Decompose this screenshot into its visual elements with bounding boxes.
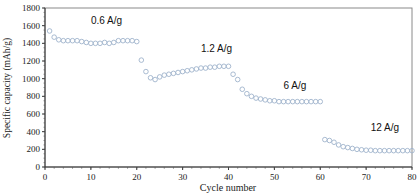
- data-point: [176, 70, 181, 75]
- plot-frame: [45, 8, 412, 167]
- y-tick-label: 1800: [22, 3, 41, 13]
- data-point: [401, 148, 406, 153]
- data-point: [139, 58, 144, 63]
- data-point: [208, 65, 213, 70]
- data-point: [134, 39, 139, 44]
- data-point: [171, 71, 176, 76]
- data-point: [52, 35, 57, 40]
- data-point: [267, 98, 272, 103]
- data-point: [222, 64, 227, 69]
- data-point: [368, 148, 373, 153]
- data-point: [332, 140, 337, 145]
- data-point: [162, 73, 167, 78]
- data-point: [116, 38, 121, 43]
- x-tick-label: 70: [362, 172, 372, 182]
- x-tick-label: 30: [178, 172, 188, 182]
- data-point: [318, 99, 323, 104]
- data-point: [217, 64, 222, 69]
- x-tick-label: 0: [43, 172, 48, 182]
- data-point: [194, 67, 199, 72]
- x-tick-label: 50: [270, 172, 280, 182]
- y-axis-label: Specific capacity (mAh/g): [2, 38, 13, 138]
- x-tick-label: 40: [224, 172, 234, 182]
- y-tick-label: 0: [36, 162, 41, 172]
- rate-annotation: 6 A/g: [284, 80, 307, 91]
- y-tick-label: 1200: [22, 56, 41, 66]
- y-tick-label: 600: [27, 109, 41, 119]
- data-point: [180, 69, 185, 74]
- data-point: [323, 137, 328, 142]
- rate-annotation: 0.6 A/g: [91, 15, 122, 26]
- x-axis-label: Cycle number: [200, 182, 257, 193]
- data-point: [240, 87, 245, 92]
- y-tick-label: 400: [27, 127, 41, 137]
- data-point: [199, 66, 204, 71]
- chart-svg: 0200400600800100012001400160018000102030…: [0, 0, 420, 194]
- data-point: [387, 148, 392, 153]
- data-point: [300, 99, 305, 104]
- x-tick-label: 60: [316, 172, 326, 182]
- data-point: [378, 148, 383, 153]
- data-point: [341, 144, 346, 149]
- data-point: [345, 145, 350, 150]
- data-point: [93, 41, 98, 46]
- x-tick-label: 10: [86, 172, 96, 182]
- data-point: [47, 29, 52, 34]
- data-point: [144, 69, 149, 74]
- data-point: [391, 148, 396, 153]
- data-point: [336, 143, 341, 148]
- data-point: [373, 148, 378, 153]
- data-point: [107, 41, 112, 46]
- data-point: [327, 138, 332, 143]
- data-point: [350, 146, 355, 151]
- data-point: [56, 38, 61, 43]
- data-point: [286, 99, 291, 104]
- capacity-chart: 0200400600800100012001400160018000102030…: [0, 0, 420, 194]
- data-point: [112, 40, 117, 45]
- data-point: [396, 148, 401, 153]
- data-point: [212, 65, 217, 70]
- data-point: [231, 72, 236, 77]
- data-point: [309, 99, 314, 104]
- data-point: [157, 75, 162, 80]
- data-point: [263, 98, 268, 103]
- chart-annotations: 0.6 A/g1.2 A/g6 A/g12 A/g: [91, 15, 399, 133]
- x-tick-label: 80: [408, 172, 418, 182]
- data-point: [98, 41, 103, 46]
- data-point: [203, 66, 208, 71]
- data-point: [61, 38, 66, 43]
- data-point: [364, 148, 369, 153]
- data-point: [359, 147, 364, 152]
- data-point: [382, 148, 387, 153]
- chart-axes: 0200400600800100012001400160018000102030…: [22, 3, 417, 182]
- data-point: [89, 41, 94, 46]
- data-point: [226, 64, 231, 69]
- data-point: [148, 75, 153, 80]
- data-point: [249, 94, 254, 99]
- data-point: [66, 38, 71, 43]
- data-point: [153, 77, 158, 82]
- data-point: [79, 39, 84, 44]
- y-tick-label: 1400: [22, 38, 41, 48]
- rate-annotation: 1.2 A/g: [201, 43, 232, 54]
- data-point: [75, 38, 80, 43]
- rate-annotation: 12 A/g: [371, 122, 399, 133]
- y-tick-label: 200: [27, 144, 41, 154]
- data-point: [304, 99, 309, 104]
- data-point: [102, 40, 107, 45]
- data-point: [185, 68, 190, 73]
- data-point: [355, 147, 360, 152]
- data-point: [313, 99, 318, 104]
- y-tick-label: 800: [27, 91, 41, 101]
- x-tick-label: 20: [132, 172, 142, 182]
- data-point: [272, 98, 277, 103]
- y-tick-label: 1600: [22, 21, 41, 31]
- data-point: [70, 38, 75, 43]
- data-point: [258, 97, 263, 102]
- data-point: [190, 68, 195, 73]
- data-point: [125, 38, 130, 43]
- data-point: [295, 99, 300, 104]
- data-point: [290, 99, 295, 104]
- data-point: [121, 38, 126, 43]
- y-tick-label: 1000: [22, 74, 41, 84]
